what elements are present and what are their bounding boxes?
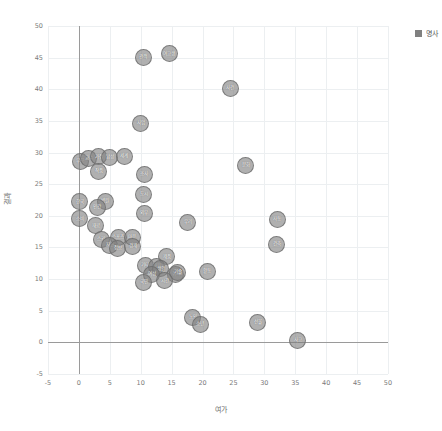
- y-axis-tick-label: 10: [35, 275, 43, 283]
- legend-swatch-icon: [415, 30, 422, 37]
- data-point[interactable]: 사업: [132, 115, 149, 132]
- data-point[interactable]: 우리: [179, 214, 196, 231]
- gridline-horizontal: [48, 89, 388, 90]
- x-axis-line: [48, 342, 388, 343]
- gridline-vertical: [48, 26, 49, 374]
- gridline-vertical: [357, 26, 358, 374]
- data-point[interactable]: 국민: [135, 274, 152, 291]
- y-axis-tick-label: 40: [35, 85, 43, 93]
- data-point[interactable]: 한국: [71, 193, 88, 210]
- y-axis-tick-label: 30: [35, 149, 43, 157]
- data-point-label: 사업: [137, 121, 145, 126]
- data-point-label: 선물: [254, 320, 262, 325]
- legend-label: 명사: [426, 28, 438, 38]
- x-axis-tick-label: 10: [137, 379, 145, 387]
- data-point-label: 조사: [140, 172, 148, 177]
- data-point-label: 기술: [174, 270, 182, 275]
- y-axis-tick-label: 20: [35, 212, 43, 220]
- gridline-horizontal: [48, 216, 388, 217]
- data-point[interactable]: 관객: [135, 49, 152, 66]
- data-point-label: 도시: [140, 192, 148, 197]
- x-axis-tick-label: 35: [291, 379, 299, 387]
- y-axis-tick-label: 5: [39, 307, 43, 315]
- data-point-label: 관객: [139, 55, 147, 60]
- data-point-label: 우리: [184, 220, 192, 225]
- gridline-vertical: [295, 26, 296, 374]
- data-point-label: 경제: [129, 244, 137, 249]
- gridline-horizontal: [48, 58, 388, 59]
- x-axis-tick-label: 40: [322, 379, 330, 387]
- y-axis-tick-label: 15: [35, 243, 43, 251]
- data-point-label: 한국: [76, 200, 84, 205]
- y-axis-tick-label: 50: [35, 22, 43, 30]
- y-axis-tick-label: 35: [35, 117, 43, 125]
- data-point[interactable]: 건축: [268, 236, 285, 253]
- x-axis-tick-label: 45: [353, 379, 361, 387]
- scatter-chart: 명사 결과 여가 -505101520253035404550-50510152…: [0, 0, 442, 431]
- data-point-label: 자동: [273, 217, 281, 222]
- data-point-label: 작품: [95, 169, 103, 174]
- data-point[interactable]: 소년: [192, 316, 209, 333]
- gridline-vertical: [172, 26, 173, 374]
- data-point[interactable]: 사건: [222, 80, 239, 97]
- data-point[interactable]: 소비: [71, 210, 88, 227]
- data-point-label: 활동: [203, 269, 211, 274]
- data-point-label: 문화: [242, 163, 250, 168]
- x-axis-tick-label: -5: [45, 379, 51, 387]
- data-point-label: 사고: [294, 338, 302, 343]
- data-point-label: 시간: [161, 279, 169, 284]
- y-axis-tick-label: -5: [37, 370, 43, 378]
- gridline-vertical: [388, 26, 389, 374]
- gridline-vertical: [233, 26, 234, 374]
- data-point[interactable]: 사고: [289, 332, 306, 349]
- x-axis-tick-label: 50: [384, 379, 392, 387]
- y-axis-tick-label: 25: [35, 180, 43, 188]
- gridline-horizontal: [48, 26, 388, 27]
- data-point[interactable]: 경제: [124, 238, 141, 255]
- x-axis-title: 여가: [0, 404, 442, 414]
- data-point-label: 건축: [273, 242, 281, 247]
- gridline-horizontal: [48, 374, 388, 375]
- y-axis-title: 결과: [2, 193, 12, 205]
- gridline-vertical: [326, 26, 327, 374]
- data-point-label: 남성: [106, 155, 114, 160]
- data-point[interactable]: 인간: [89, 199, 106, 216]
- y-axis-tick-label: 45: [35, 54, 43, 62]
- data-point-label: 제품: [163, 255, 171, 260]
- gridline-horizontal: [48, 279, 388, 280]
- plot-area: -505101520253035404550-50510152025303540…: [48, 26, 388, 374]
- data-point[interactable]: 문화: [237, 157, 254, 174]
- data-point-label: 사건: [226, 86, 234, 91]
- data-point-label: 세계: [120, 154, 128, 159]
- x-axis-tick-label: 0: [77, 379, 81, 387]
- data-point[interactable]: 도시: [135, 186, 152, 203]
- y-axis-tick-label: 0: [39, 338, 43, 346]
- data-point-label: 소비: [76, 217, 84, 222]
- data-point-label: 소년: [196, 322, 204, 327]
- chart-legend: 명사: [415, 28, 438, 38]
- gridline-horizontal: [48, 184, 388, 185]
- x-axis-tick-label: 30: [260, 379, 268, 387]
- data-point-label: 정보: [114, 246, 122, 251]
- data-point[interactable]: 세계: [116, 148, 133, 165]
- data-point[interactable]: 여고생: [161, 45, 178, 62]
- data-point-label: 국민: [140, 280, 148, 285]
- x-axis-tick-label: 5: [108, 379, 112, 387]
- data-point[interactable]: 조사: [136, 166, 153, 183]
- gridline-horizontal: [48, 311, 388, 312]
- x-axis-tick-label: 25: [229, 379, 237, 387]
- data-point[interactable]: 작품: [90, 163, 107, 180]
- data-point-label: 인간: [93, 205, 101, 210]
- data-point-label: 재료: [92, 224, 100, 229]
- data-point[interactable]: 외부: [136, 205, 153, 222]
- data-point-label: 외부: [140, 211, 148, 216]
- data-point[interactable]: 활동: [199, 263, 216, 280]
- x-axis-tick-label: 15: [167, 379, 175, 387]
- data-point[interactable]: 자동: [269, 211, 286, 228]
- x-axis-tick-label: 20: [198, 379, 206, 387]
- gridline-horizontal: [48, 121, 388, 122]
- data-point-label: 여고생: [163, 52, 175, 57]
